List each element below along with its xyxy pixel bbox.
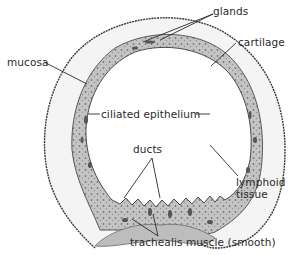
label-lymphoid-line1: lymphoid xyxy=(236,176,286,188)
trachea-diagram: glands cartilage mucosa ciliated epithel… xyxy=(0,0,291,255)
lumen xyxy=(86,47,251,207)
label-cartilage: cartilage xyxy=(238,36,285,48)
label-ciliated-epithelium: ciliated epithelium xyxy=(101,108,200,120)
label-trachealis-muscle: trachealis muscle (smooth) xyxy=(130,236,276,248)
label-mucosa: mucosa xyxy=(7,56,49,68)
label-lymphoid-line2: tissue xyxy=(236,188,268,200)
label-glands: glands xyxy=(213,5,248,17)
label-ducts: ducts xyxy=(133,143,162,155)
